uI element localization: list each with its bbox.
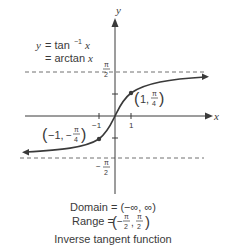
range-label: Range = ( − π 2 , π 2 ) — [0, 213, 226, 229]
point-label-1-pi4: ( 1, π 4 ) — [134, 90, 164, 107]
point-neg1-negpi4 — [97, 137, 101, 141]
point-1-pi4 — [129, 91, 133, 95]
svg-text:= arctan: = arctan — [45, 52, 85, 64]
svg-text:y: y — [35, 39, 41, 51]
svg-text:): ) — [159, 90, 164, 107]
y-axis-label: y — [115, 4, 121, 16]
svg-text:π: π — [152, 90, 157, 97]
domain-label: Domain = (−∞, ∞) — [0, 201, 226, 213]
svg-text:π: π — [104, 61, 109, 68]
svg-text:2: 2 — [104, 169, 108, 176]
svg-text:): ) — [81, 126, 86, 143]
caption: Inverse tangent function — [0, 233, 226, 245]
svg-text:−: − — [96, 162, 101, 171]
upper-asymptote-label: π 2 — [103, 61, 110, 78]
x-axis-arrow-icon — [205, 113, 213, 120]
svg-text:x: x — [87, 52, 93, 64]
svg-text:π: π — [124, 213, 129, 220]
tick-label-x-neg1: −1 — [92, 121, 102, 130]
svg-text:x: x — [84, 39, 90, 51]
y-axis-arrow-icon — [112, 18, 119, 27]
svg-text:= tan: = tan — [45, 39, 70, 51]
svg-text:π: π — [74, 126, 79, 133]
svg-text:1,: 1, — [140, 93, 149, 105]
svg-text:,: , — [131, 217, 134, 228]
svg-text:): ) — [145, 213, 150, 230]
svg-text:−: − — [66, 130, 72, 141]
svg-text:4: 4 — [152, 100, 156, 107]
svg-text:π: π — [137, 213, 142, 220]
equation-label: y = tan −1 x = arctan x — [35, 38, 93, 64]
lower-asymptote-label: − π 2 — [96, 159, 110, 176]
svg-text:−1,: −1, — [48, 129, 64, 141]
svg-text:2: 2 — [137, 223, 141, 230]
svg-text:2: 2 — [124, 223, 128, 230]
svg-text:4: 4 — [74, 136, 78, 143]
svg-text:2: 2 — [104, 71, 108, 78]
svg-text:π: π — [104, 159, 109, 166]
svg-text:−: − — [117, 216, 123, 227]
curve-right-arrow-icon — [202, 74, 209, 81]
svg-text:−1: −1 — [74, 38, 82, 45]
x-axis-label: x — [213, 110, 219, 122]
tick-label-x-1: 1 — [129, 121, 134, 130]
svg-text:Range =: Range = — [72, 215, 114, 227]
point-label-neg1-negpi4: ( −1, − π 4 ) — [42, 126, 86, 143]
curve-left-arrow-icon — [22, 149, 29, 156]
